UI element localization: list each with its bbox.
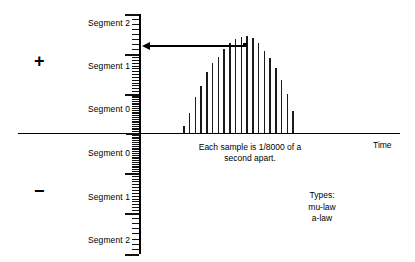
quantization-tick [125,14,139,16]
quantization-tick [132,196,139,197]
sample-bar [195,97,197,133]
type-a-law: a-law [282,213,362,225]
segment-label-pos-0: Segment 0 [35,104,130,114]
quantization-tick [132,96,139,97]
sample-bar [218,57,220,133]
sample-bar [223,49,225,133]
sample-bar [212,63,214,133]
types-heading: Types: [282,190,362,202]
sample-bar [264,51,266,133]
quantization-tick [132,135,139,136]
quantization-tick [132,83,139,84]
sample-bar [275,68,277,133]
quantization-tick [132,106,139,107]
quantization-tick [132,160,139,161]
sample-bar [189,113,191,133]
quantization-tick [132,68,139,69]
quantization-tick [132,151,139,152]
sample-bar [281,80,283,133]
sample-bar [246,36,248,133]
quantization-tick [132,167,139,168]
quantization-tick [132,239,139,240]
quantization-tick [132,85,139,86]
sample-bar [206,72,208,133]
quantization-tick [132,210,139,211]
quantization-tick [132,104,139,105]
sample-rate-note-line-1: Each sample is 1/8000 of a [180,142,320,153]
quantization-tick [132,108,139,109]
sample-bar [292,111,294,133]
quantization-tick [132,190,139,191]
quantization-tick [132,88,139,89]
quantization-tick [132,121,139,122]
quantization-tick [132,171,139,172]
quantization-tick [132,119,139,120]
quantization-tick [132,124,139,125]
quantization-tick [132,101,139,102]
quantization-tick [132,66,139,67]
quantization-tick [132,131,139,132]
quantization-tick [132,184,139,185]
quantization-tick [132,112,139,113]
quantization-tick [132,115,139,116]
segment-label-pos-2: Segment 2 [35,18,130,28]
quantization-tick [132,29,139,30]
negative-polarity-sign: − [34,182,45,200]
sample-bar [229,43,231,133]
quantization-tick [132,19,139,20]
quantization-tick [132,228,139,229]
quantization-tick [132,128,139,129]
quantization-tick [132,129,139,130]
quantization-tick [132,193,139,194]
quantization-tick [132,169,139,170]
quantization-tick [126,54,139,56]
quantization-tick [132,181,139,182]
types-note: Types: mu-law a-law [282,190,362,225]
type-mu-law: mu-law [282,202,362,214]
quantization-tick [132,138,139,139]
quantization-tick [132,199,139,200]
sample-rate-note-line-2: second apart. [180,153,320,164]
quantization-tick [132,97,139,98]
sample-bar [287,94,289,133]
segment-label-neg-1: Segment 1 [35,192,130,202]
companding-diagram: Segment 2 Segment 1 Segment 0 Segment 0 … [0,0,415,262]
quantization-tick [132,77,139,78]
measurement-arrow-line [149,45,245,47]
quantization-tick [132,44,139,45]
sample-bar [252,38,254,133]
time-axis [18,133,400,134]
quantization-tick [126,213,139,215]
segment-label-neg-2: Segment 2 [35,235,130,245]
quantization-tick [132,99,139,100]
quantization-tick [125,254,139,256]
quantization-tick [132,71,139,72]
quantization-tick [132,249,139,250]
sample-bar [235,39,237,133]
positive-polarity-sign: + [34,52,45,70]
quantization-tick [132,49,139,50]
quantization-tick [132,153,139,154]
quantization-tick [132,149,139,150]
quantization-tick [132,158,139,159]
quantization-tick [126,173,139,175]
quantization-tick [132,233,139,234]
segment-label-pos-1: Segment 1 [35,61,130,71]
quantization-tick [132,140,139,141]
quantization-tick [132,223,139,224]
time-axis-label: Time [373,140,392,150]
sample-bar [269,58,271,133]
amplitude-axis [139,14,141,254]
sample-bar [258,43,260,133]
segment-label-neg-0: Segment 0 [35,148,130,158]
marked-sample-dot [243,43,247,47]
sample-bar [241,37,243,133]
quantization-tick [132,201,139,202]
quantization-tick [132,146,139,147]
sample-bar [200,86,202,133]
quantization-tick [132,244,139,245]
quantization-tick [132,74,139,75]
quantization-tick [132,207,139,208]
quantization-tick [132,117,139,118]
quantization-tick [132,204,139,205]
